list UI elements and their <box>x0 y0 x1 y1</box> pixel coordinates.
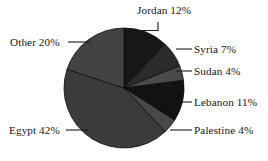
slice-label-palestine: Palestine 4% <box>194 124 253 136</box>
slice-label-egypt: Egypt 42% <box>9 124 60 136</box>
slice-label-sudan: Sudan 4% <box>194 65 240 77</box>
leader-line-jordan <box>136 22 158 31</box>
slice-label-jordan: Jordan 12% <box>137 4 191 16</box>
slice-label-syria: Syria 7% <box>194 43 236 55</box>
slice-label-lebanon: Lebanon 11% <box>194 96 257 108</box>
pie-chart-canvas <box>0 0 268 161</box>
slice-label-other: Other 20% <box>10 36 60 48</box>
pie-chart: Jordan 12% Syria 7% Sudan 4% Lebanon 11%… <box>0 0 268 161</box>
